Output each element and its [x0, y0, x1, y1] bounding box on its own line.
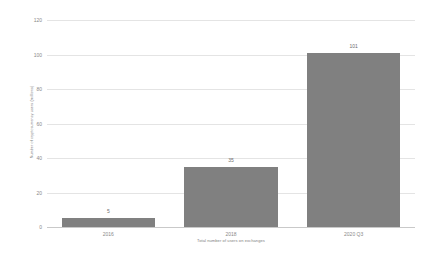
bar[interactable]: [184, 167, 277, 227]
x-tick-label: 2018: [184, 232, 277, 237]
bar[interactable]: [307, 53, 400, 227]
bars-group: 520163520181012020 Q3: [47, 20, 415, 227]
bar-value-label: 101: [307, 44, 400, 49]
x-tick-label: 2020 Q3: [307, 232, 400, 237]
y-tick-label: 100: [34, 52, 42, 57]
bar[interactable]: [62, 218, 155, 227]
plot-area: 020406080100120 520163520181012020 Q3: [47, 20, 415, 227]
bar-slot: 1012020 Q3: [307, 20, 400, 227]
gridline-0: 0: [47, 227, 415, 228]
bar-slot: 52016: [62, 20, 155, 227]
y-tick-label: 120: [34, 18, 42, 23]
bar-value-label: 35: [184, 158, 277, 163]
y-tick-label: 80: [36, 87, 42, 92]
y-tick-label: 40: [36, 156, 42, 161]
x-axis-title: Total number of users on exchanges: [47, 238, 415, 243]
y-tick-label: 0: [39, 225, 42, 230]
bar-chart: Number of cryptocurrency users (millions…: [0, 0, 437, 260]
bar-value-label: 5: [62, 209, 155, 214]
bar-slot: 352018: [184, 20, 277, 227]
x-tick-label: 2016: [62, 232, 155, 237]
y-axis-title: Number of cryptocurrency users (millions…: [30, 47, 34, 197]
y-tick-label: 20: [36, 190, 42, 195]
y-tick-label: 60: [36, 121, 42, 126]
